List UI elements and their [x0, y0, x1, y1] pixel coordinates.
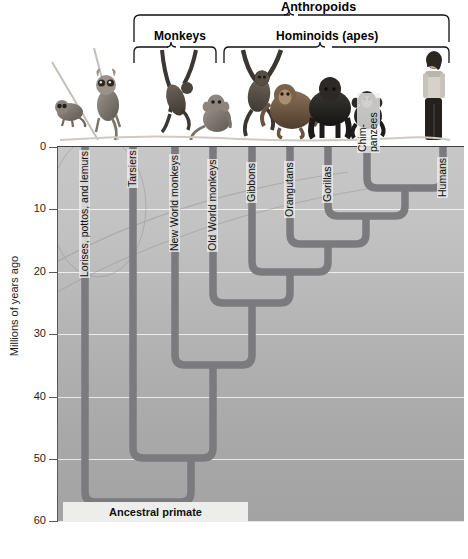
taxon-label-lorises: Lorises, pottos, and lemurs [79, 150, 90, 278]
y-tick-20 [49, 272, 57, 273]
animal-new-world-monkey [162, 50, 196, 132]
y-tick-10 [49, 209, 57, 210]
taxon-label-orangutans: Orangutans [284, 161, 295, 218]
y-ticklabel-0: 0 [0, 141, 46, 152]
taxon-label-humans: Humans [437, 157, 448, 198]
y-tick-0 [49, 147, 57, 148]
y-tick-30 [49, 334, 57, 335]
figure-primate-phylogeny: Anthropoids Monkeys Hominoids (apes) [0, 0, 468, 559]
taxon-label-gorillas: Gorillas [322, 165, 333, 203]
taxon-label-tarsiers: Tarsiers [127, 149, 138, 188]
y-ticklabel-50: 50 [0, 453, 46, 464]
animal-loris [55, 100, 85, 127]
taxon-label-gibbons: Gibbons [246, 162, 257, 203]
y-tick-40 [49, 397, 57, 398]
taxon-label-chimpanzees: Chim- panzees [357, 93, 380, 153]
plot-area [58, 147, 464, 522]
animal-old-world-monkey [191, 95, 231, 141]
taxon-label-new-world-monkeys: New World monkeys [169, 154, 180, 252]
ancestral-primate-box: Ancestral primate [63, 502, 248, 522]
cladogram-branches [58, 147, 464, 522]
y-tick-60 [49, 521, 57, 522]
y-axis-label: Millions of years ago [8, 241, 20, 371]
y-ticklabel-10: 10 [0, 203, 46, 214]
y-ticklabel-30: 30 [0, 328, 46, 339]
y-ticklabel-40: 40 [0, 391, 46, 402]
branch-panhomo-split [367, 147, 443, 188]
animal-human [423, 51, 445, 140]
y-tick-50 [49, 459, 57, 460]
y-ticklabel-20: 20 [0, 266, 46, 277]
taxon-label-old-world-monkeys: Old World monkeys [207, 159, 218, 252]
animal-gorilla [309, 77, 351, 138]
y-ticklabel-60: 60 [0, 515, 46, 526]
animal-illustration-group [0, 0, 468, 150]
animal-tarsier [96, 69, 120, 140]
